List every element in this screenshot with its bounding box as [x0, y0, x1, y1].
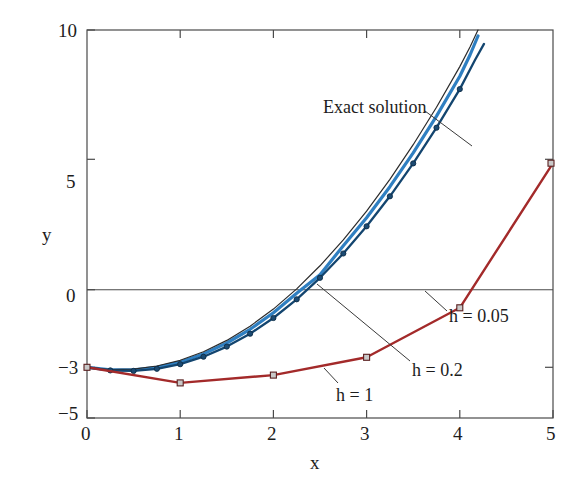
y-tick-label-minus3: −3 [58, 357, 78, 379]
x-tick-label-3: 3 [360, 423, 370, 445]
annotation-h-005: h = 0.05 [449, 306, 509, 327]
annotation-h-02: h = 0.2 [412, 360, 463, 381]
x-tick-label-4: 4 [453, 423, 463, 445]
x-tick-label-5: 5 [546, 423, 556, 445]
plot-frame [87, 30, 553, 418]
y-tick-label-10: 10 [58, 20, 77, 42]
annotation-h-1: h = 1 [336, 385, 373, 406]
x-tick-label-1: 1 [174, 423, 184, 445]
x-tick-label-2: 2 [267, 423, 277, 445]
y-tick-label-5: 5 [66, 171, 76, 193]
figure-container: 10 5 0 −3 −5 0 1 2 3 4 5 x y Exact solut… [0, 0, 587, 487]
y-tick-label-minus5: −5 [58, 403, 78, 425]
axes-box [87, 30, 553, 418]
annotation-exact-solution: Exact solution [323, 97, 426, 118]
y-tick-label-0: 0 [66, 285, 76, 307]
y-axis-title: y [42, 224, 52, 246]
x-tick-label-0: 0 [81, 423, 91, 445]
chart-canvas [0, 0, 587, 487]
x-axis-title: x [310, 452, 320, 474]
